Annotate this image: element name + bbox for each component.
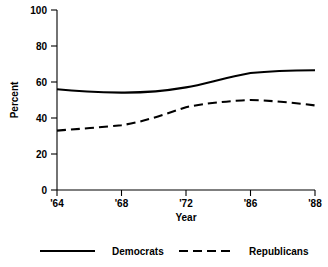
y-tick-label-40: 40 — [36, 113, 48, 124]
series-line-democrats — [57, 70, 315, 92]
y-tick-label-0: 0 — [41, 185, 47, 196]
y-axis-ticks — [51, 10, 57, 190]
x-tick-label-68: '68 — [115, 198, 129, 209]
x-tick-label-86: '86 — [244, 198, 258, 209]
legend-label-democrats: Democrats — [112, 246, 164, 257]
y-axis-title: Percent — [9, 81, 20, 118]
y-tick-label-60: 60 — [36, 77, 48, 88]
y-tick-label-100: 100 — [30, 5, 47, 16]
x-tick-label-72: '72 — [179, 198, 193, 209]
chart-container: 0 20 40 60 80 100 '64 '68 '72 '86 '88 Ye… — [0, 0, 328, 267]
chart-legend: Democrats Republicans — [40, 246, 309, 257]
x-axis-tick-labels: '64 '68 '72 '86 '88 — [50, 198, 322, 209]
legend-label-republicans: Republicans — [249, 246, 309, 257]
series-line-republicans — [57, 100, 315, 131]
line-chart: 0 20 40 60 80 100 '64 '68 '72 '86 '88 Ye… — [0, 0, 328, 267]
x-tick-label-88: '88 — [308, 198, 322, 209]
y-tick-label-80: 80 — [36, 41, 48, 52]
x-tick-label-64: '64 — [50, 198, 64, 209]
y-axis-tick-labels: 0 20 40 60 80 100 — [30, 5, 47, 196]
x-axis-title: Year — [175, 212, 196, 223]
x-axis-ticks — [57, 190, 315, 196]
y-tick-label-20: 20 — [36, 149, 48, 160]
